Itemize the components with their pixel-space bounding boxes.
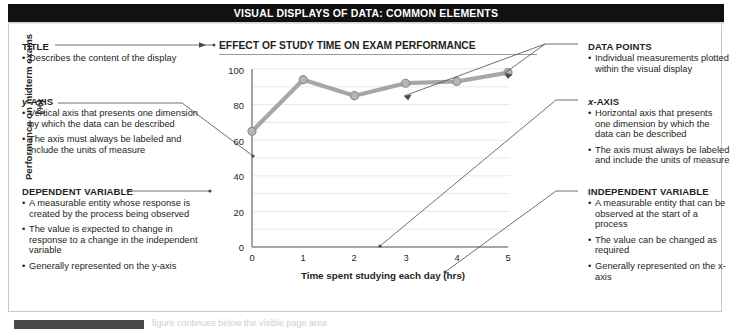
callout-x-axis-heading: x-AXIS [588,96,730,107]
callout-title: TITLE Describes the content of the displ… [22,41,202,69]
y-tick-100: 100 [218,65,244,76]
bottom-cut-text: figure continues below the visible page … [152,318,327,328]
x-tick-4: 4 [447,252,467,263]
chart-x-axis-label: Time spent studying each day (hrs) [243,270,523,281]
callout-data-points-bullets: Individual measurements plotted within t… [588,53,730,74]
chart-y-axis-label: Performance on midterm exams (%) [23,27,45,187]
y-tick-0: 0 [218,242,244,253]
list-item: Describes the content of the display [22,53,202,64]
figure-header-bar: VISUAL DISPLAYS OF DATA: COMMON ELEMENTS [8,4,724,22]
y-tick-40: 40 [218,171,244,182]
list-item: A measurable entity that can be observed… [588,198,730,230]
x-tick-1: 1 [293,252,313,263]
callout-y-axis-bullets: Vertical axis that presents one dimensio… [22,108,202,155]
x-tick-3: 3 [396,252,416,263]
list-item: The axis must always be labeled and incl… [22,134,202,155]
x-tick-5: 5 [498,252,518,263]
callout-title-heading: TITLE [22,41,202,52]
callout-x-axis: x-AXIS Horizontal axis that presents one… [588,96,730,171]
callout-independent-variable: INDEPENDENT VARIABLE A measurable entity… [588,186,730,287]
figure-page: VISUAL DISPLAYS OF DATA: COMMON ELEMENTS… [0,0,732,329]
y-tick-20: 20 [218,207,244,218]
callout-dependent-variable-heading: DEPENDENT VARIABLE [22,186,202,197]
list-item: A measurable entity whose response is cr… [22,198,202,219]
bottom-dark-block [14,320,144,329]
chart-title: EFFECT OF STUDY TIME ON EXAM PERFORMANCE [219,40,537,55]
list-item: Generally represented on the y-axis [22,261,202,272]
list-item: The value can be changed as required [588,235,730,256]
list-item: Individual measurements plotted within t… [588,53,730,74]
x-tick-0: 0 [242,252,262,263]
figure-header-title: VISUAL DISPLAYS OF DATA: COMMON ELEMENTS [8,4,724,22]
callout-independent-variable-heading: INDEPENDENT VARIABLE [588,186,730,197]
callout-title-bullets: Describes the content of the display [22,53,202,64]
callout-independent-variable-bullets: A measurable entity that can be observed… [588,198,730,282]
x-axis-heading-rest: -AXIS [593,96,619,107]
callout-y-axis: y-AXIS Vertical axis that presents one d… [22,96,202,160]
list-item: The value is expected to change in respo… [22,224,202,256]
callout-y-axis-heading: y-AXIS [22,96,202,107]
list-item: Horizontal axis that presents one dimens… [588,108,730,140]
y-tick-80: 80 [218,100,244,111]
callout-data-points-heading: DATA POINTS [588,41,730,52]
list-item: Vertical axis that presents one dimensio… [22,108,202,129]
callout-dependent-variable: DEPENDENT VARIABLE A measurable entity w… [22,186,202,277]
callout-dependent-variable-bullets: A measurable entity whose response is cr… [22,198,202,272]
callout-data-points: DATA POINTS Individual measurements plot… [588,41,730,79]
x-tick-2: 2 [344,252,364,263]
y-tick-60: 60 [218,136,244,147]
page-bottom-strip: figure continues below the visible page … [0,318,732,329]
list-item: The axis must always be labeled and incl… [588,145,730,166]
list-item: Generally represented on the x-axis [588,261,730,282]
callout-x-axis-bullets: Horizontal axis that presents one dimens… [588,108,730,166]
